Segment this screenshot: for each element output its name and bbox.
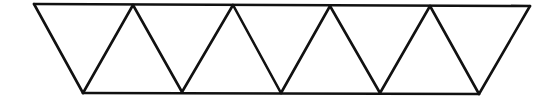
diagonal-edge — [233, 5, 281, 93]
diagonal-edge — [330, 6, 380, 93]
diagonal-edge — [133, 5, 182, 92]
diagonal-edge — [430, 6, 479, 94]
diagonal-edge — [380, 6, 430, 93]
diagonal-edge — [479, 6, 530, 94]
diagonal-edge — [182, 5, 233, 92]
diagram-edges — [34, 4, 530, 94]
top-edge — [34, 4, 530, 6]
diagonal-edge — [34, 4, 83, 93]
diagonal-edge — [281, 6, 330, 93]
diagonal-edge — [83, 5, 133, 93]
triangle-strip-diagram — [0, 0, 556, 106]
